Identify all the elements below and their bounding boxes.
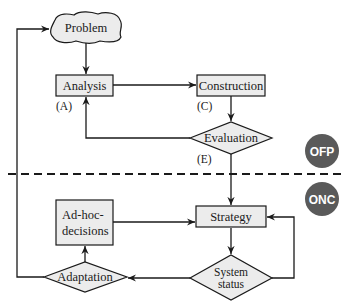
evaluation-tag: (E) bbox=[197, 153, 212, 166]
node-problem: Problem bbox=[51, 12, 122, 43]
flowchart: Problem Analysis (A) Construction (C) Ev… bbox=[0, 0, 348, 301]
evaluation-label: Evaluation bbox=[204, 131, 259, 145]
adaptation-label: Adaptation bbox=[57, 270, 113, 284]
system-status-label-line2: status bbox=[218, 278, 245, 290]
edge-adaptation-problem bbox=[17, 29, 49, 277]
construction-tag: (C) bbox=[197, 100, 213, 113]
badge-online-control: ONC bbox=[305, 182, 339, 216]
onc-label: ONC bbox=[309, 193, 336, 207]
adhoc-label-line2: decisions bbox=[62, 224, 109, 238]
analysis-label: Analysis bbox=[63, 79, 107, 93]
ofp-label: OFP bbox=[310, 145, 335, 159]
node-evaluation: Evaluation bbox=[190, 122, 272, 154]
analysis-tag: (A) bbox=[56, 100, 72, 113]
node-strategy: Strategy bbox=[196, 206, 266, 227]
badge-offline-planning: OFP bbox=[305, 134, 339, 168]
problem-label: Problem bbox=[65, 21, 108, 35]
edge-evaluation-analysis bbox=[86, 97, 190, 138]
node-analysis: Analysis bbox=[56, 75, 113, 96]
node-system-status: System status bbox=[190, 255, 272, 300]
strategy-label: Strategy bbox=[210, 210, 252, 224]
construction-label: Construction bbox=[199, 79, 264, 93]
adhoc-label-line1: Ad-hoc- bbox=[62, 208, 104, 222]
node-adhoc-decisions: Ad-hoc- decisions bbox=[56, 200, 113, 245]
node-adaptation: Adaptation bbox=[44, 262, 127, 292]
edge-systemstatus-strategy bbox=[267, 217, 294, 278]
node-construction: Construction bbox=[197, 75, 265, 96]
